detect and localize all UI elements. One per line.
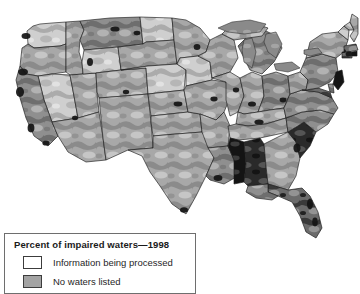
legend-item-information-being-processed: Information being processed (5, 255, 195, 269)
lake-erie (274, 62, 300, 72)
state-kansas (148, 90, 188, 116)
state-rhode-island (352, 51, 357, 56)
legend-swatch-no-waters-listed (23, 275, 42, 288)
legend-label-no-waters-listed: No waters listed (53, 276, 121, 287)
legend-label-information-being-processed: Information being processed (53, 257, 173, 268)
state-north-dakota (140, 17, 174, 44)
legend-title: Percent of impaired waters—1998 (5, 234, 195, 250)
state-florida (268, 184, 322, 238)
legend-swatch-information-being-processed (23, 256, 42, 269)
state-colorado (96, 68, 148, 98)
legend: Percent of impaired waters—1998 Informat… (4, 233, 196, 294)
legend-item-no-waters-listed: No waters listed (5, 274, 195, 288)
impaired-waters-figure: Percent of impaired waters—1998 Informat… (0, 0, 360, 294)
map-states (16, 14, 358, 238)
state-idaho (66, 21, 84, 75)
state-washington (27, 22, 66, 48)
